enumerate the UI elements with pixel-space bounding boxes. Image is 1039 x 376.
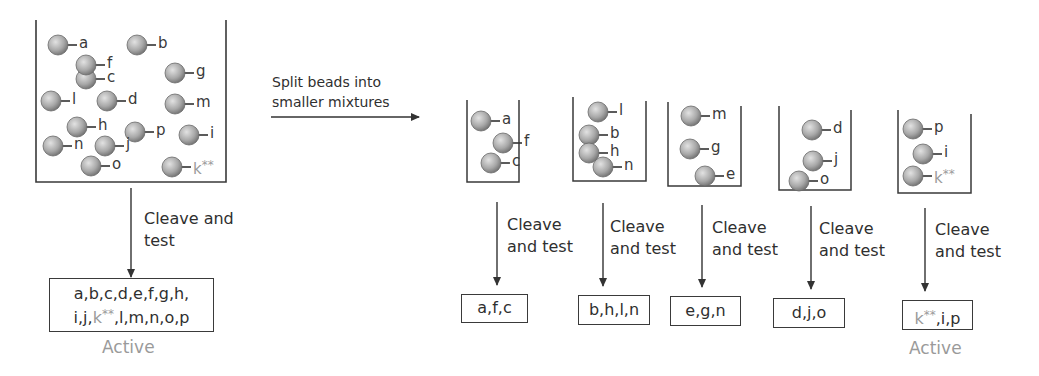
sub-5-bead-k <box>903 166 932 186</box>
bead-label: o <box>112 157 121 172</box>
main-result-line1: a,b,c,d,e,f,g,h, <box>50 284 213 304</box>
main-active-label: Active <box>102 337 155 357</box>
main-bead-i <box>179 125 208 145</box>
sub-result-box-3: e,g,n <box>670 296 741 326</box>
sub-3-bead-e <box>695 166 724 186</box>
bead-label: a <box>502 112 511 127</box>
main-bead-d <box>97 91 126 111</box>
bead-icon <box>97 91 117 111</box>
sub-arrow-label-4-line1: Cleave <box>819 218 885 240</box>
bead-label: p <box>156 123 166 138</box>
sub-arrow-label-2-line1: Cleave <box>610 216 676 238</box>
split-label-line2: smaller mixtures <box>272 92 390 112</box>
bead-icon <box>41 91 61 111</box>
main-bead-l <box>41 91 70 111</box>
bead-icon <box>76 55 96 75</box>
bead-icon <box>680 139 700 159</box>
sub-arrow-label-3-line1: Cleave <box>712 217 778 239</box>
bead-label: n <box>624 158 634 173</box>
bead-icon <box>127 35 147 55</box>
bead-label: b <box>610 126 620 141</box>
sub-4-bead-o <box>789 171 818 191</box>
sub-result-box-1: a,f,c <box>461 294 528 323</box>
bead-label: k** <box>934 167 955 186</box>
bead-label: o <box>820 172 829 187</box>
bead-label: p <box>934 120 944 135</box>
main-bead-g <box>165 63 194 83</box>
bead-label: h <box>98 118 108 133</box>
bead-icon <box>162 157 182 177</box>
main-bead-k <box>162 157 191 177</box>
main-arrow-label-line1: Cleave and <box>144 208 234 230</box>
bead-icon <box>165 94 185 114</box>
main-result-line2: i,j,k**,l,m,n,o,p <box>50 304 213 328</box>
sub-result-box-5: k**,i,p <box>902 300 973 330</box>
bead-icon <box>43 136 63 156</box>
main-bead-h <box>67 117 96 137</box>
bead-icon <box>48 35 68 55</box>
bead-icon <box>179 125 199 145</box>
sub-arrow-label-1-line2: and test <box>507 236 573 258</box>
bead-icon <box>95 136 115 156</box>
bead-label: c <box>107 70 115 85</box>
sub-5-bead-i <box>913 144 942 164</box>
bead-label: n <box>74 137 84 152</box>
bead-icon <box>481 153 501 173</box>
main-result-line2-pre: i,j, <box>74 308 93 327</box>
bead-icon <box>579 125 599 145</box>
bead-icon <box>913 144 933 164</box>
sub-2-bead-b <box>579 125 608 145</box>
sub-result-box-2: b,h,l,n <box>578 295 650 325</box>
bead-label: g <box>711 140 721 155</box>
sub-result-5-rest: ,i,p <box>936 309 961 328</box>
bead-label: j <box>834 152 838 167</box>
bead-icon <box>681 106 701 126</box>
sub-1-bead-c <box>481 153 510 173</box>
bead-label: f <box>524 134 529 149</box>
main-bead-group <box>41 35 208 177</box>
sub-arrow-label-5: Cleave and test <box>935 219 1001 263</box>
sub-active-label: Active <box>909 338 962 358</box>
bead-label: i <box>210 126 214 141</box>
main-bead-b <box>127 35 156 55</box>
bead-icon <box>165 63 185 83</box>
bead-icon <box>789 171 809 191</box>
sub-5-bead-p <box>903 119 932 139</box>
bead-icon <box>67 117 87 137</box>
bead-label: h <box>610 144 620 159</box>
bead-icon <box>903 119 923 139</box>
main-bead-a <box>48 35 77 55</box>
main-result-line2-post: ,l,m,n,o,p <box>114 308 190 327</box>
sub-result-5-active-marker: ** <box>924 308 936 322</box>
bead-icon <box>471 111 491 131</box>
sub-arrow-label-4-line2: and test <box>819 240 885 262</box>
bead-label: m <box>712 107 727 122</box>
active-marker: ** <box>943 167 955 181</box>
sub-result-box-4: d,j,o <box>773 298 845 328</box>
sub-arrow-label-4: Cleave and test <box>819 218 885 262</box>
split-arrow-label: Split beads into smaller mixtures <box>272 72 390 112</box>
split-label-line1: Split beads into <box>272 72 390 92</box>
bead-label: e <box>726 167 735 182</box>
sub-result-5-active-compound: k <box>914 309 923 328</box>
active-marker: ** <box>202 158 214 172</box>
bead-icon <box>588 102 608 122</box>
main-result-box: a,b,c,d,e,f,g,h, i,j,k**,l,m,n,o,p <box>49 278 214 332</box>
bead-label: c <box>512 154 520 169</box>
main-bead-o <box>81 156 110 176</box>
sub-arrow-label-5-line2: and test <box>935 241 1001 263</box>
bead-label: f <box>107 56 112 71</box>
bead-icon <box>493 133 513 153</box>
sub-arrow-label-1-line1: Cleave <box>507 214 573 236</box>
bead-icon <box>695 166 715 186</box>
main-bead-m <box>165 94 194 114</box>
bead-label: j <box>126 137 130 152</box>
main-bead-j <box>95 136 124 156</box>
bead-label: l <box>619 103 623 118</box>
sub-4-bead-j <box>803 151 832 171</box>
main-result-active-compound: k <box>93 308 102 327</box>
bead-icon <box>802 120 822 140</box>
bead-label: b <box>158 36 168 51</box>
main-arrow-label: Cleave and test <box>144 208 234 252</box>
bead-label: a <box>79 36 88 51</box>
